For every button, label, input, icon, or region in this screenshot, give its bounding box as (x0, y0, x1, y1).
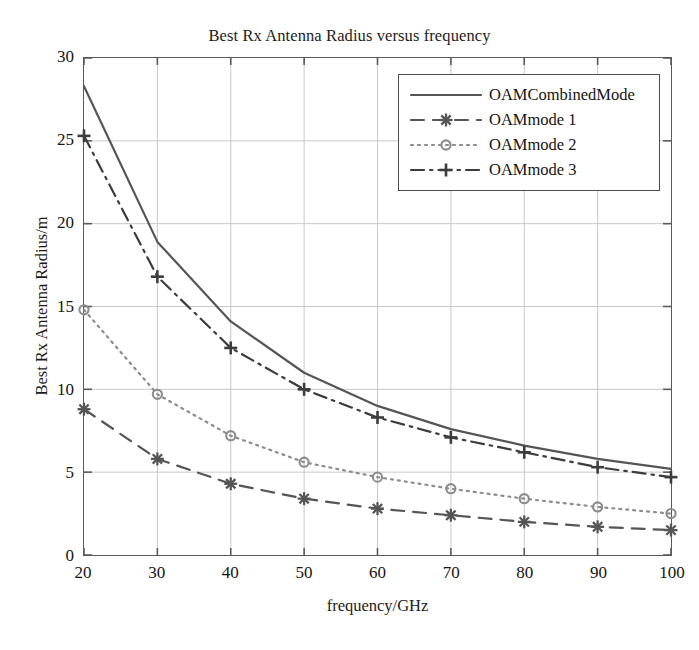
y-tick-label: 10 (57, 380, 74, 400)
x-tick-label: 40 (222, 563, 239, 583)
chart-legend: OAMCombinedModeOAMmode 1OAMmode 2OAMmode… (398, 74, 660, 191)
legend-item[interactable]: OAMmode 2 (409, 132, 649, 157)
chart-title: Best Rx Antenna Radius versus frequency (0, 26, 699, 46)
y-tick-label: 15 (57, 297, 74, 317)
legend-line-sample (409, 84, 483, 106)
chart-figure: Best Rx Antenna Radius versus frequency … (0, 0, 699, 650)
y-tick-label: 0 (66, 546, 75, 566)
legend-line-sample (409, 134, 483, 156)
x-axis-title: frequency/GHz (83, 596, 672, 616)
legend-label: OAMmode 3 (483, 160, 577, 180)
y-tick-label: 20 (57, 213, 74, 233)
y-tick-label: 25 (57, 130, 74, 150)
legend-line-sample (409, 159, 483, 181)
legend-label: OAMmode 1 (483, 110, 577, 130)
legend-label: OAMmode 2 (483, 135, 577, 155)
x-tick-label: 60 (369, 563, 386, 583)
legend-line-sample (409, 109, 483, 131)
legend-item[interactable]: OAMmode 3 (409, 157, 649, 182)
legend-label: OAMCombinedMode (483, 85, 635, 105)
y-axis-title: Best Rx Antenna Radius/m (32, 156, 52, 456)
x-tick-label: 100 (659, 563, 685, 583)
x-tick-label: 30 (148, 563, 165, 583)
y-tick-label: 5 (66, 463, 75, 483)
x-tick-label: 90 (590, 563, 607, 583)
x-tick-label: 20 (75, 563, 92, 583)
y-tick-label: 30 (57, 47, 74, 67)
legend-item[interactable]: OAMmode 1 (409, 107, 649, 132)
x-axis-tick-labels: 2030405060708090100 (83, 563, 672, 587)
x-tick-label: 70 (443, 563, 460, 583)
x-tick-label: 50 (295, 563, 312, 583)
x-tick-label: 80 (516, 563, 533, 583)
legend-item[interactable]: OAMCombinedMode (409, 82, 649, 107)
